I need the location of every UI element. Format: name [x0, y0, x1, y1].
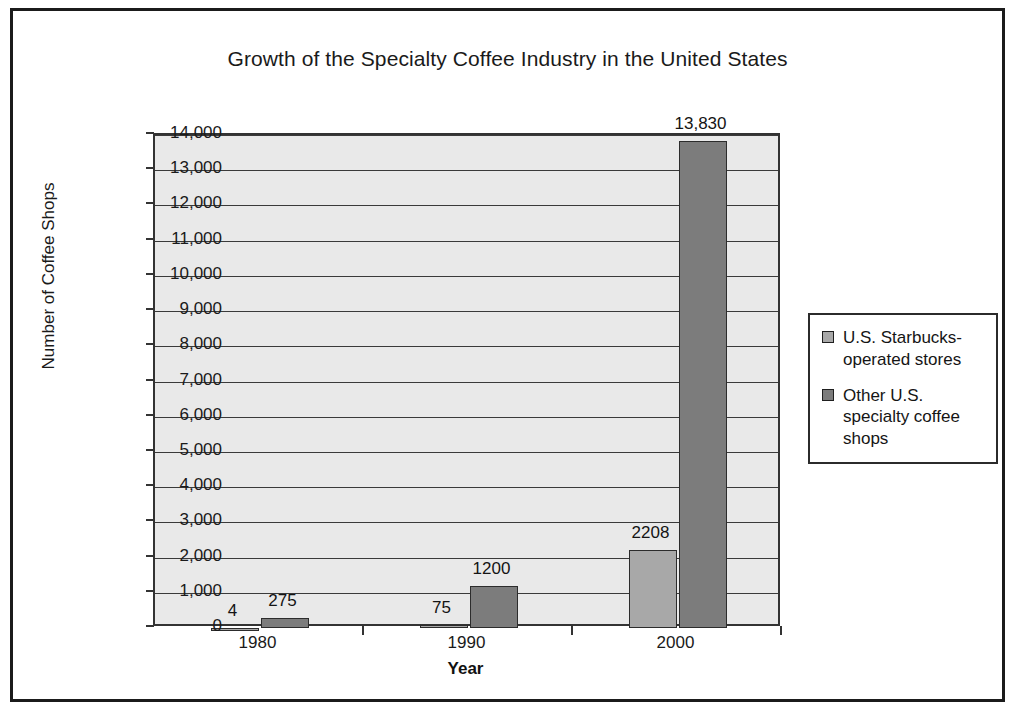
x-axis-tick-label: 2000	[657, 633, 695, 653]
y-axis-tick-label: 3,000	[102, 510, 222, 530]
y-axis-tick-label: 9,000	[102, 299, 222, 319]
y-axis-tick-label: 2,000	[102, 546, 222, 566]
y-axis-tick-label: 0	[102, 616, 222, 636]
bar-value-label: 1200	[473, 559, 511, 579]
y-axis-tick-mark	[146, 238, 154, 240]
bar[interactable]	[470, 586, 518, 628]
legend-entry[interactable]: Other U.S. specialty coffee shops	[822, 385, 986, 450]
y-axis-tick-mark	[146, 379, 154, 381]
bar-value-label: 13,830	[675, 114, 727, 134]
legend-swatch-icon	[822, 331, 834, 343]
figure-frame: Growth of the Specialty Coffee Industry …	[10, 8, 1005, 702]
y-axis-tick-label: 7,000	[102, 370, 222, 390]
bar[interactable]	[629, 550, 677, 628]
bar[interactable]	[261, 618, 309, 628]
y-axis-tick-mark	[146, 132, 154, 134]
y-axis-tick-label: 10,000	[102, 264, 222, 284]
y-axis-tick-label: 13,000	[102, 158, 222, 178]
y-axis-tick-label: 8,000	[102, 334, 222, 354]
bar[interactable]	[679, 141, 727, 628]
y-axis-tick-mark	[146, 590, 154, 592]
y-axis-tick-label: 5,000	[102, 440, 222, 460]
y-axis-tick-mark	[146, 343, 154, 345]
y-axis-tick-mark	[146, 484, 154, 486]
y-axis-tick-mark	[146, 308, 154, 310]
gridline	[155, 135, 778, 136]
y-axis-tick-mark	[146, 625, 154, 627]
legend-label: Other U.S. specialty coffee shops	[843, 385, 986, 450]
y-axis-title: Number of Coffee Shops	[39, 166, 59, 386]
y-axis-tick-mark	[146, 449, 154, 451]
y-axis-tick-label: 6,000	[102, 405, 222, 425]
chart-legend: U.S. Starbucks-operated storesOther U.S.…	[808, 313, 998, 464]
legend-entry[interactable]: U.S. Starbucks-operated stores	[822, 327, 986, 371]
x-axis-tick-mark	[780, 626, 782, 635]
y-axis-tick-label: 1,000	[102, 581, 222, 601]
y-axis-tick-label: 14,000	[102, 123, 222, 143]
bar-value-label: 4	[228, 601, 237, 621]
x-axis-tick-mark	[362, 626, 364, 635]
y-axis-tick-label: 4,000	[102, 475, 222, 495]
bar-value-label: 2208	[632, 523, 670, 543]
bar-value-label: 75	[432, 598, 451, 618]
y-axis-tick-mark	[146, 167, 154, 169]
y-axis-tick-label: 12,000	[102, 193, 222, 213]
bar-value-label: 275	[268, 591, 296, 611]
y-axis-tick-mark	[146, 273, 154, 275]
x-axis-tick-label: 1980	[239, 633, 277, 653]
x-axis-tick-label: 1990	[448, 633, 486, 653]
chart-title: Growth of the Specialty Coffee Industry …	[13, 47, 1002, 71]
y-axis-tick-mark	[146, 202, 154, 204]
legend-label: U.S. Starbucks-operated stores	[843, 327, 986, 371]
bar[interactable]	[420, 625, 468, 628]
y-axis-tick-label: 11,000	[102, 229, 222, 249]
plot-area	[153, 133, 780, 626]
x-axis-tick-mark	[571, 626, 573, 635]
y-axis-tick-mark	[146, 519, 154, 521]
y-axis-tick-mark	[146, 414, 154, 416]
legend-swatch-icon	[822, 389, 834, 401]
y-axis-tick-mark	[146, 555, 154, 557]
x-axis-title: Year	[153, 659, 778, 679]
